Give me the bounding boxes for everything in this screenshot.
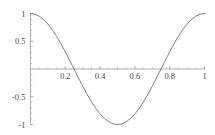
- plot-canvas: 0.20.40.60.8110.5-0.5-1: [0, 0, 215, 135]
- y-tick-label: 1: [21, 9, 25, 19]
- y-tick-label: -1: [18, 120, 25, 130]
- x-tick-label: 0.4: [95, 71, 106, 81]
- plot-figure: 0.20.40.60.8110.5-0.5-1: [0, 0, 215, 135]
- tick-marks-group: [31, 14, 205, 125]
- x-tick-label: 0.6: [130, 71, 141, 81]
- y-tick-label: -0.5: [12, 92, 25, 102]
- x-tick-label: 0.2: [60, 71, 71, 81]
- x-tick-label: 1: [202, 71, 206, 81]
- y-tick-label: 0.5: [15, 36, 26, 46]
- x-tick-label: 0.8: [164, 71, 175, 81]
